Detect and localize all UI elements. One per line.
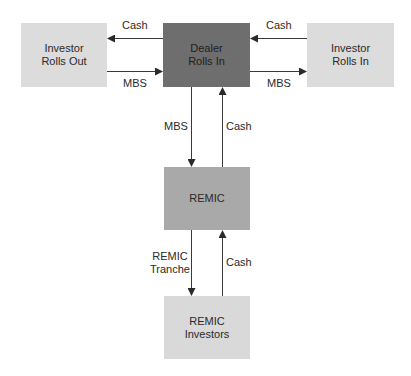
edge-label-cash-right: Cash xyxy=(266,19,292,32)
node-label-line: REMIC xyxy=(189,192,224,205)
edge-label-cash-up: Cash xyxy=(226,120,252,133)
node-remic: REMIC xyxy=(164,167,250,230)
edge-label-remic-tranche: REMIC Tranche xyxy=(150,250,190,276)
edge-label-mbs-right: MBS xyxy=(267,77,291,90)
node-label-line: Dealer xyxy=(188,42,225,55)
edge-label-line: Tranche xyxy=(150,263,190,276)
edge-label-mbs-down: MBS xyxy=(164,120,188,133)
node-label-line: Investor xyxy=(331,42,370,55)
node-dealer-rolls-in: Dealer Rolls In xyxy=(163,23,250,87)
edge-label-cash-up-lower: Cash xyxy=(226,256,252,269)
edge-label-cash-left: Cash xyxy=(122,19,148,32)
edge-label-mbs-left: MBS xyxy=(123,77,147,90)
node-label-line: REMIC xyxy=(185,315,230,328)
edge-label-line: REMIC xyxy=(150,250,190,263)
node-label-line: Rolls Out xyxy=(41,55,86,68)
node-investor-rolls-out: Investor Rolls Out xyxy=(21,23,107,87)
node-investor-rolls-in: Investor Rolls In xyxy=(307,23,394,87)
node-remic-investors: REMIC Investors xyxy=(164,296,250,359)
node-label-line: Investor xyxy=(41,42,86,55)
node-label-line: Rolls In xyxy=(331,55,370,68)
node-label-line: Rolls In xyxy=(188,55,225,68)
node-label-line: Investors xyxy=(185,328,230,341)
